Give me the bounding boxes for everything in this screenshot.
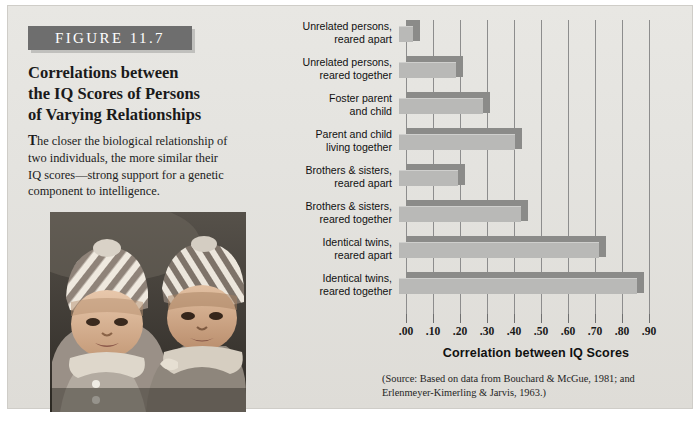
source-note-line-2: Erlenmeyer-Kimerling & Jarvis, 1963.) [382,386,682,400]
bar-side-face [521,206,528,221]
gridline [622,20,623,314]
x-axis-tick [595,314,596,323]
bar [399,164,465,186]
source-note: (Source: Based on data from Bouchard & M… [382,372,682,399]
caption-text: he closer the biological relationship of… [28,134,227,198]
x-axis-tick-labels: .00.10.20.30.40.50.60.70.80.90 [396,325,686,341]
category-label-identical-twins-apart: Identical twins, reared apart [256,236,392,262]
x-axis-tick-label: .40 [499,325,529,338]
category-label-identical-twins-together: Identical twins, reared together [256,272,392,298]
figure-title-line-2: the IQ Scores of Persons [28,83,238,104]
bar-side-face [599,242,606,257]
bar [399,20,420,42]
figure-title-line-1: Correlations between [28,62,238,83]
x-axis-tick [487,314,488,323]
gridline [541,20,542,314]
figure-caption: The closer the biological relationship o… [28,132,232,200]
bar-side-face [413,26,420,41]
category-label-line-1: Brothers & sisters, [256,200,392,213]
x-axis-tick-label: .80 [607,325,637,338]
figure-left-column: FIGURE 11.7 Correlations between the IQ … [22,16,244,400]
bar-front-face [399,98,483,114]
category-label-unrelated-together: Unrelated persons, reared together [256,56,392,82]
bar-front-face [399,242,599,258]
bar [399,236,606,258]
gridline [595,20,596,314]
x-axis-tick-label: .70 [580,325,610,338]
plot-area: .00.10.20.30.40.50.60.70.80.90 [396,14,686,314]
category-label-line-1: Brothers & sisters, [256,164,392,177]
category-label-line-1: Parent and child [256,128,392,141]
bar [399,56,463,78]
bar-side-face [483,98,490,113]
category-label-parent-child-together: Parent and child living together [256,128,392,154]
category-label-line-1: Identical twins, [256,272,392,285]
gridline [487,20,488,314]
x-axis-tick-label: .50 [526,325,556,338]
category-label-line-2: reared apart [256,33,392,46]
x-axis-ticks [396,314,686,324]
gridline [568,20,569,314]
x-axis-tick [433,314,434,323]
bar-front-face [399,278,637,294]
x-axis-title: Correlation between IQ Scores [396,346,676,360]
category-label-siblings-together: Brothers & sisters, reared together [256,200,392,226]
x-axis-tick-label: .60 [553,325,583,338]
category-label-line-2: reared together [256,285,392,298]
bar [399,92,490,114]
bar-front-face [399,134,515,150]
bar-side-face [515,134,522,149]
x-axis-tick [649,314,650,323]
category-label-line-2: reared together [256,69,392,82]
category-label-line-2: reared apart [256,177,392,190]
category-label-line-2: and child [256,105,392,118]
x-axis-tick [622,314,623,323]
category-label-line-2: reared apart [256,249,392,262]
figure-root: FIGURE 11.7 Correlations between the IQ … [0,0,700,423]
x-axis-tick-label: .90 [634,325,664,338]
x-axis-tick-label: .20 [445,325,475,338]
x-axis-tick-label: .00 [391,325,421,338]
caption-dropcap: T [28,133,37,148]
category-label-line-1: Unrelated persons, [256,56,392,69]
category-label-line-1: Unrelated persons, [256,20,392,33]
infants-photo [50,212,246,412]
category-label-line-1: Foster parent [256,92,392,105]
source-note-line-1: (Source: Based on data from Bouchard & M… [382,372,682,386]
x-axis-tick-label: .30 [472,325,502,338]
category-label-line-1: Identical twins, [256,236,392,249]
figure-title-line-3: of Varying Relationships [28,104,238,125]
category-label-siblings-apart: Brothers & sisters, reared apart [256,164,392,190]
x-axis-tick [514,314,515,323]
category-label-foster-parent-child: Foster parent and child [256,92,392,118]
bar-front-face [399,62,456,78]
chart: Unrelated persons, reared apart Unrelate… [256,14,686,406]
bar-front-face [399,170,458,186]
figure-panel: FIGURE 11.7 Correlations between the IQ … [8,6,692,408]
category-axis-labels: Unrelated persons, reared apart Unrelate… [256,14,392,310]
infants-photo-art [50,212,246,412]
bar-side-face [637,278,644,293]
bar [399,200,528,222]
bar [399,272,644,294]
bar [399,128,522,150]
category-label-unrelated-apart: Unrelated persons, reared apart [256,20,392,46]
figure-number-banner: FIGURE 11.7 [28,26,192,50]
gridline [514,20,515,314]
figure-title: Correlations between the IQ Scores of Pe… [28,62,238,125]
category-label-line-2: reared together [256,213,392,226]
x-axis-tick [568,314,569,323]
gridline [649,20,650,314]
bar-front-face [399,26,413,42]
x-axis-tick [541,314,542,323]
x-axis-tick-label: .10 [418,325,448,338]
x-axis-tick [406,314,407,323]
x-axis-tick [460,314,461,323]
bar-side-face [458,170,465,185]
category-label-line-2: living together [256,141,392,154]
bar-front-face [399,206,521,222]
bar-side-face [456,62,463,77]
figure-number-label: FIGURE 11.7 [28,26,192,50]
